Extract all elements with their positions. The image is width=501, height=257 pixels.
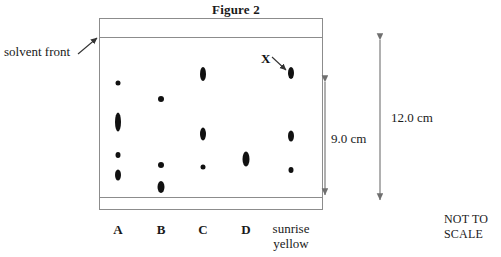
lane-label-line: yellow — [273, 237, 310, 252]
dimension-label-inner: 9.0 cm — [331, 131, 366, 147]
chromatogram-spot — [200, 67, 206, 81]
lane-label-line: A — [113, 222, 122, 238]
solvent-front-line — [100, 37, 322, 38]
chromatogram-spot — [158, 96, 164, 102]
lane-label-c: C — [198, 222, 207, 238]
chromatogram-spot — [200, 128, 206, 141]
figure-container: Figure 2 ABCDsunriseyellow solvent front… — [0, 0, 501, 257]
chromatogram-spot — [158, 162, 164, 168]
lane-label-line: D — [241, 222, 250, 238]
dimension-label-outer: 12.0 cm — [391, 110, 433, 126]
chromatogram-spot — [289, 167, 294, 173]
solvent-front-label: solvent front — [4, 44, 70, 60]
chromatography-plate — [99, 18, 323, 210]
chromatogram-spot — [115, 170, 121, 181]
spot-x-label: X — [261, 51, 270, 67]
page-title: Figure 2 — [176, 2, 296, 18]
lane-label-line: C — [198, 222, 207, 238]
not-to-scale-note: NOT TO SCALE — [444, 212, 488, 241]
chromatogram-spot — [288, 131, 294, 142]
lane-label-b: B — [157, 222, 166, 238]
lane-label-line: B — [157, 222, 166, 238]
chromatogram-spot — [116, 152, 121, 158]
chromatogram-spot — [243, 152, 250, 167]
not-to-scale-line-1: NOT TO — [444, 212, 488, 227]
lane-label-line: sunrise — [273, 222, 310, 237]
chromatogram-spot — [116, 81, 121, 86]
not-to-scale-line-2: SCALE — [444, 227, 488, 242]
chromatogram-spot — [201, 165, 206, 170]
lane-label-d: D — [241, 222, 250, 238]
baseline-line — [100, 197, 322, 198]
chromatogram-spot — [158, 181, 165, 193]
chromatogram-spot — [115, 113, 121, 132]
lane-label-a: A — [113, 222, 122, 238]
chromatogram-spot — [288, 67, 294, 79]
lane-label-sunrise-yellow: sunriseyellow — [273, 222, 310, 251]
solvent-front-arrow — [78, 38, 97, 54]
